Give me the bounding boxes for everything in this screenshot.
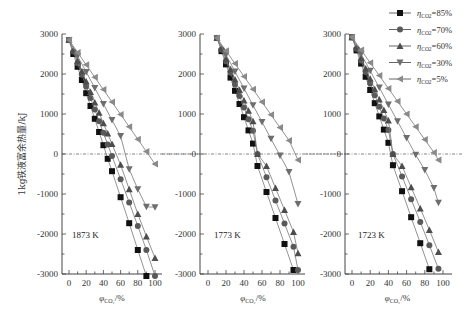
y-tick-label: 3000: [178, 29, 197, 39]
triangle-down-marker-icon: [385, 101, 392, 108]
square-marker-icon: [109, 168, 115, 174]
square-marker-icon: [408, 214, 414, 220]
circle-marker-icon: [397, 27, 403, 33]
triangle-down-marker-icon: [250, 102, 257, 109]
temperature-label: 1723 K: [358, 230, 385, 240]
triangle-down-marker-icon: [286, 169, 293, 176]
triangle-left-marker-icon: [100, 86, 107, 93]
triangle-up-marker-icon: [295, 250, 302, 257]
y-tick-label: 2000: [40, 69, 59, 79]
circle-marker-icon: [264, 174, 270, 180]
square-marker-icon: [426, 266, 432, 272]
circle-marker-icon: [435, 266, 441, 272]
y-tick-label: 3000: [323, 29, 342, 39]
triangle-left-marker-icon: [430, 149, 437, 156]
triangle-down-marker-icon: [277, 153, 284, 160]
triangle-up-marker-icon: [272, 185, 279, 192]
triangle-left-marker-icon: [126, 123, 133, 130]
circle-marker-icon: [96, 118, 102, 124]
triangle-left-marker-icon: [250, 86, 257, 93]
y-tick-label: 1000: [40, 109, 59, 119]
triangle-down-marker-icon: [109, 117, 116, 124]
series-triangle-up: [214, 35, 302, 257]
x-tick-label: 60: [258, 278, 268, 288]
circle-marker-icon: [152, 273, 158, 279]
x-tick-label: 80: [276, 278, 286, 288]
circle-marker-icon: [399, 173, 405, 179]
temperature-label: 1873 K: [72, 230, 99, 240]
y-tick-label: -1000: [37, 189, 58, 199]
square-marker-icon: [126, 220, 132, 226]
y-tick-label: 2000: [323, 69, 342, 79]
circle-marker-icon: [295, 267, 301, 273]
legend-item: ηCO2=85%: [389, 8, 452, 19]
triangle-up-marker-icon: [290, 229, 297, 236]
y-tick-label: -2000: [37, 229, 58, 239]
legend-label: ηCO2=70%: [417, 25, 452, 36]
triangle-left-marker-icon: [91, 74, 98, 81]
figure: 3000200010000-1000-2000-3000020406080100…: [0, 0, 470, 322]
triangle-down-marker-icon: [435, 200, 442, 207]
chart-panels: 3000200010000-1000-2000-3000020406080100…: [37, 29, 462, 304]
series-line: [217, 38, 298, 160]
x-tick-label: 80: [133, 278, 143, 288]
triangle-left-marker-icon: [435, 157, 442, 164]
circle-marker-icon: [135, 223, 141, 229]
triangle-left-marker-icon: [152, 161, 159, 168]
triangle-down-marker-icon: [295, 201, 302, 208]
triangle-left-marker-icon: [403, 111, 410, 118]
triangle-down-marker-icon: [268, 136, 275, 143]
series-square: [66, 37, 149, 279]
circle-marker-icon: [126, 199, 132, 205]
circle-marker-icon: [143, 247, 149, 253]
triangle-up-marker-icon: [126, 186, 133, 193]
triangle-left-marker-icon: [376, 72, 383, 79]
square-marker-icon: [255, 163, 261, 169]
x-tick-label: 80: [420, 278, 430, 288]
x-tick-label: 40: [384, 278, 394, 288]
legend-item: ηCO2=30%: [389, 58, 452, 69]
circle-marker-icon: [109, 153, 115, 159]
x-axis-label: φCO₂/%: [240, 293, 266, 304]
panel-1723k: 3000200010000-1000-2000-3000020406080100…: [305, 29, 462, 304]
x-tick-label: 40: [240, 278, 250, 288]
triangle-up-marker-icon: [143, 233, 150, 240]
triangle-up-marker-icon: [134, 211, 141, 218]
y-tick-label: 1000: [178, 109, 197, 119]
triangle-up-marker-icon: [281, 207, 288, 214]
y-tick-label: -2000: [320, 229, 341, 239]
square-marker-icon: [135, 247, 141, 253]
triangle-left-marker-icon: [421, 136, 428, 143]
x-tick-label: 20: [82, 278, 92, 288]
circle-marker-icon: [250, 128, 256, 134]
x-tick-label: 20: [222, 278, 232, 288]
panel-1873k: 3000200010000-1000-2000-3000020406080100…: [37, 29, 200, 304]
triangle-down-marker-icon: [91, 85, 98, 92]
legend-label: ηCO2=30%: [417, 58, 452, 69]
triangle-down-marker-icon: [394, 118, 401, 125]
square-marker-icon: [143, 273, 149, 279]
triangle-up-marker-icon: [417, 205, 424, 212]
square-marker-icon: [399, 188, 405, 194]
triangle-down-marker-icon: [403, 135, 410, 142]
triangle-left-marker-icon: [109, 99, 116, 106]
triangle-down-marker-icon: [100, 101, 107, 108]
circle-marker-icon: [118, 176, 124, 182]
square-marker-icon: [397, 10, 403, 16]
triangle-left-marker-icon: [367, 59, 374, 66]
triangle-left-marker-icon: [117, 111, 124, 118]
circle-marker-icon: [273, 197, 279, 203]
y-tick-label: -1000: [320, 189, 341, 199]
x-tick-label: 100: [291, 278, 305, 288]
triangle-left-marker-icon: [277, 124, 284, 131]
panel-1773k: 3000200010000-1000-2000-3000020406080100…: [162, 29, 345, 304]
x-axis-label: φCO₂/%: [99, 293, 125, 304]
triangle-down-marker-icon: [412, 152, 419, 159]
square-marker-icon: [264, 189, 270, 195]
y-tick-label: 1000: [323, 109, 342, 119]
triangle-left-marker-icon: [385, 85, 392, 92]
triangle-up-marker-icon: [399, 163, 406, 170]
circle-marker-icon: [291, 244, 297, 250]
y-tick-label: 0: [54, 149, 59, 159]
y-axis-label: 1kg铁液富余热量/kJ: [16, 112, 27, 195]
